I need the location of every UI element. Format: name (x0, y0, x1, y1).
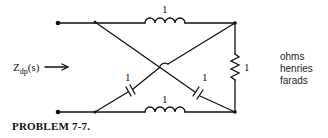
inductor-bottom (145, 107, 185, 112)
z-sub: dp (20, 67, 28, 76)
top-branch (58, 18, 235, 23)
bottom-branch (58, 107, 235, 112)
impedance-label: Zdp(s) (13, 61, 39, 76)
unit-henries: henries (280, 63, 313, 75)
r1-value: 1 (244, 61, 250, 73)
node (233, 110, 237, 114)
terminal-bottom (56, 110, 61, 115)
units-legend: ohms henries farads (280, 51, 313, 87)
c1-value: 1 (125, 71, 131, 83)
l1-value: 1 (162, 3, 168, 15)
capacitor-c1-plate (126, 87, 131, 96)
capacitor-c1-plate (130, 85, 135, 94)
terminal-top (56, 21, 61, 26)
node (233, 21, 237, 25)
inductor-top (145, 18, 185, 23)
circuit-diagram: 1 1 1 1 1 (0, 0, 328, 138)
c2-value: 1 (202, 71, 208, 83)
figure-caption: PROBLEM 7-7. (12, 120, 90, 132)
resistor (231, 54, 239, 80)
unit-ohms: ohms (280, 51, 313, 63)
node (94, 21, 97, 24)
z-arg: (s) (28, 61, 40, 73)
unit-farads: farads (280, 75, 313, 87)
z-main: Z (13, 61, 20, 73)
node (94, 111, 97, 114)
l2-value: 1 (162, 93, 168, 105)
right-branch (231, 23, 239, 112)
